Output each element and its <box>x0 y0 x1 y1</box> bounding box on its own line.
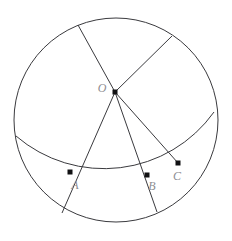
ray-o-through-a-to-rim <box>62 92 115 213</box>
point-b-dot <box>145 173 150 178</box>
point-a-label: A <box>70 178 79 192</box>
point-c-label: C <box>173 169 182 183</box>
ray-o-to-top-right-rim <box>115 36 172 92</box>
point-b-label: B <box>148 179 156 193</box>
point-o-dot <box>113 90 118 95</box>
ray-o-to-top-left-rim <box>78 25 115 92</box>
figure-canvas: O A B C <box>0 0 232 241</box>
chord-arc-abc <box>16 112 214 169</box>
point-a-dot <box>68 170 73 175</box>
ray-o-through-b-to-rim <box>115 92 157 212</box>
main-circle <box>14 18 218 222</box>
geometry-figure: O A B C <box>0 0 232 241</box>
point-o-label: O <box>98 81 107 95</box>
point-c-dot <box>176 161 181 166</box>
